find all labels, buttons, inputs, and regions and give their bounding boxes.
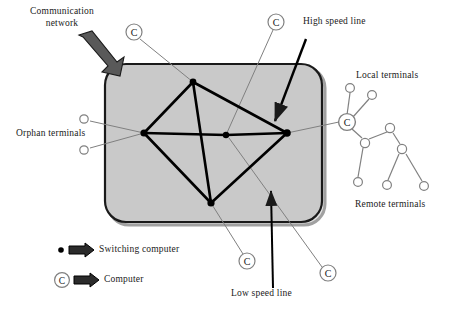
computer-marker-letter: C — [244, 256, 251, 267]
link-hub-local-2 — [353, 99, 369, 117]
remote-terminal-leaf-node — [354, 178, 363, 187]
remote-terminal-branch-node — [360, 138, 369, 147]
local-terminal-node — [346, 84, 355, 93]
legend-block-arrow-computer — [74, 273, 99, 287]
computer-marker-letter: C — [344, 117, 351, 128]
link-remote-1-leaf1 — [358, 148, 363, 177]
legend-block-arrow-switching — [69, 243, 94, 257]
switching-computer-node — [190, 79, 197, 86]
link-hub-local-1 — [347, 93, 350, 115]
remote-terminal-leaf-node — [383, 181, 392, 190]
switching-computer-node — [223, 132, 229, 138]
communication-network-label-line1: Communication — [14, 5, 110, 17]
remote-terminal-branch-node — [397, 144, 406, 153]
cloud-boundary — [105, 64, 322, 222]
legend-computer-label: Computer — [104, 274, 144, 284]
orphan-terminal-node — [80, 146, 88, 154]
switching-computer-node — [283, 129, 291, 137]
low-speed-line-label: Low speed line — [231, 288, 292, 298]
local-terminals-label: Local terminals — [356, 70, 418, 80]
link-remote-3-leaf3 — [406, 154, 422, 181]
legend-computer-letter: C — [59, 276, 65, 286]
orphan-terminal-node — [80, 115, 88, 123]
communication-network-label-line2: network — [14, 17, 110, 29]
terminal-tree-links — [347, 93, 422, 181]
local-terminal-node — [368, 91, 377, 100]
communication-network-block-arrow — [79, 31, 124, 76]
computer-marker-letter: C — [273, 17, 280, 28]
remote-terminals-label: Remote terminals — [355, 199, 425, 209]
orphan-terminals-label: Orphan terminals — [16, 128, 85, 138]
high-speed-line-label: High speed line — [303, 16, 366, 26]
remote-terminal-leaf-node — [420, 182, 429, 191]
switching-computer-node — [207, 199, 214, 206]
computer-marker-letter: C — [131, 27, 138, 38]
link-remote-2-3 — [393, 133, 400, 144]
link-remote-1-2 — [369, 132, 387, 139]
computer-marker-letter: C — [325, 268, 332, 279]
link-hub-remote — [352, 129, 362, 138]
link-remote-3-leaf2 — [388, 154, 399, 180]
switching-computer-node — [140, 129, 147, 136]
network-diagram-canvas: C C C C C C — [0, 0, 450, 312]
legend-arrows — [69, 243, 99, 287]
communication-network-label: Communication network — [14, 5, 110, 29]
legend-switching-computer-dot — [58, 247, 64, 253]
legend-switching-computer-label: Switching computer — [99, 244, 179, 254]
remote-terminal-branch-node — [385, 123, 394, 132]
